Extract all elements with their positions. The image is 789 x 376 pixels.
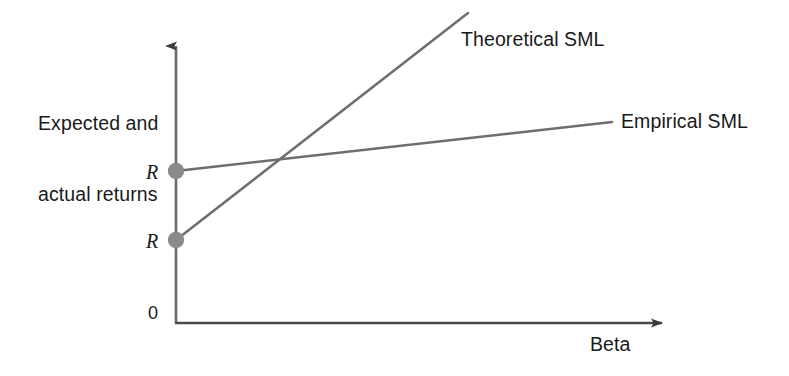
empirical-intercept-marker (168, 163, 184, 179)
y-axis-title-line-1: Expected and (38, 112, 158, 136)
empirical-sml-label: Empirical SML (621, 110, 748, 134)
theoretical-intercept-label: R (146, 229, 158, 253)
empirical-intercept-label: R (146, 160, 158, 184)
theoretical-sml-line (176, 13, 468, 240)
theoretical-sml-label: Theoretical SML (461, 28, 604, 52)
x-axis-title: Beta (590, 333, 631, 357)
empirical-sml-line (176, 122, 612, 171)
y-axis-title: Expected and actual returns (38, 64, 158, 254)
sml-figure: Expected and actual returns 0 Beta R R T… (0, 0, 789, 376)
theoretical-intercept-marker (168, 232, 184, 248)
y-axis-title-line-2: actual returns (38, 183, 158, 207)
origin-label: 0 (148, 303, 158, 325)
